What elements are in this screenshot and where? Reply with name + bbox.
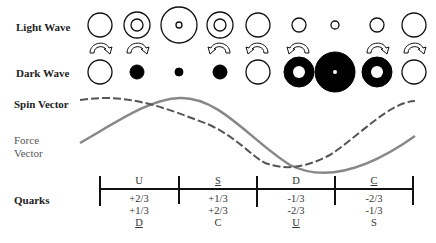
quark-charge: -2/3 (266, 205, 326, 217)
light-wave-row (88, 7, 426, 43)
quark-charge: -1/3 (344, 205, 404, 217)
quark-bottom-label: S (344, 217, 404, 229)
quark-charge: +1/3 (188, 193, 248, 205)
dark-wave-open-circle (246, 60, 270, 84)
dark-wave-filled-circle (130, 65, 144, 79)
dark-wave-hole (293, 66, 305, 78)
quark-charge: -1/3 (266, 193, 326, 205)
dark-wave-row (88, 52, 426, 92)
light-wave-circle (124, 12, 150, 38)
dark-wave-open-circle (88, 60, 112, 84)
light-wave-circle (161, 7, 197, 43)
light-wave-circle (207, 12, 233, 38)
quark-charge: +2/3 (109, 193, 169, 205)
dark-wave-filled-circle (175, 68, 183, 76)
quark-charge: +2/3 (188, 205, 248, 217)
curved-arrow-icon (90, 43, 112, 54)
quark-top-label: U (109, 175, 169, 187)
quark-bottom-label: D (109, 217, 169, 229)
quark-top-label: D (266, 175, 326, 187)
curved-arrow-icon (367, 43, 389, 54)
curved-arrow-icon (404, 43, 426, 54)
light-wave-circle (370, 18, 384, 32)
dark-wave-hole (371, 66, 383, 78)
curved-arrow-icon (287, 43, 309, 54)
quark-top-label: S (188, 175, 248, 187)
curved-arrow-icon (208, 43, 230, 54)
light-wave-circle (331, 21, 339, 29)
light-wave-circle (88, 13, 112, 37)
light-wave-circle (402, 13, 426, 37)
curved-arrow-icon (127, 43, 149, 54)
curved-arrow-icon (246, 43, 268, 54)
dark-wave-filled-circle (213, 65, 227, 79)
quark-bottom-label: U (266, 217, 326, 229)
light-wave-circle (292, 18, 306, 32)
dark-wave-hole (333, 70, 337, 74)
quark-top-label: C (344, 175, 404, 187)
arrow-row (90, 43, 426, 54)
quark-charge: +1/3 (109, 205, 169, 217)
quark-charge: -2/3 (344, 193, 404, 205)
quark-bottom-label: C (188, 217, 248, 229)
force-vector-curve (80, 98, 415, 173)
light-wave-circle (246, 13, 270, 37)
dark-wave-open-circle (402, 60, 426, 84)
